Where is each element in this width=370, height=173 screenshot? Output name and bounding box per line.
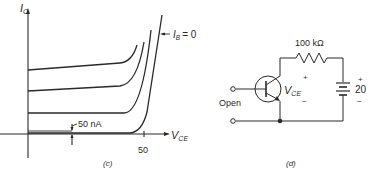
caption-c: (c) [103,159,113,168]
curve-ib-3 [28,42,144,91]
arrow-down-icon [71,127,74,131]
junction-dot [278,119,283,124]
caption-d: (d) [286,159,296,168]
vce-minus: − [302,97,307,106]
curve-ib-2 [28,30,151,113]
y-axis-label: IC [20,2,29,15]
ib-zero-arrow-icon [160,33,165,36]
curve-ib-0 [28,15,162,133]
vce-plus: + [303,73,308,82]
leakage-leader [72,124,77,126]
battery-plus: + [358,75,363,84]
resistor-label: 100 kΩ [295,38,324,48]
terminal-ground [231,119,236,124]
figure-canvas: IC VCE 50 50 nA IB= 0 (c) [0,0,370,173]
battery-minus: − [357,97,362,106]
x-tick-label: 50 [138,145,148,155]
leakage-label: 50 nA [78,119,102,129]
x-axis-arrow-icon [164,132,170,136]
x-axis-label: VCE [171,129,188,142]
ib-zero-label: IB= 0 [173,29,197,41]
resistor-symbol [296,53,327,63]
open-label: Open [219,98,241,108]
arrow-up-icon [71,134,74,138]
figure-c-plot [0,8,170,158]
vce-label: VCE [284,84,301,97]
battery-symbol [336,83,350,95]
battery-value: 20 [355,84,367,95]
curve-ib-4 [28,45,137,70]
terminal-base [231,87,236,92]
